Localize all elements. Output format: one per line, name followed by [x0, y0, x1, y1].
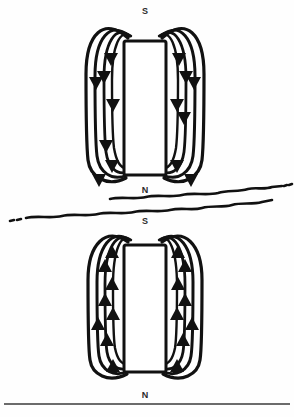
- upper-magnet-group: S N: [86, 6, 204, 195]
- wavy-boundary: [10, 184, 292, 221]
- lower-magnet-group: S N: [88, 216, 202, 400]
- wavy-boundary-lower-dashes: [10, 219, 21, 221]
- magnet-field-diagram: S N: [0, 0, 294, 417]
- lower-magnet-body: [124, 245, 166, 372]
- wavy-boundary-upper-line: [110, 186, 282, 199]
- diagram-canvas: S N: [0, 0, 294, 417]
- wavy-boundary-lower-line: [26, 200, 272, 218]
- wavy-boundary-upper-dashes: [284, 184, 292, 186]
- upper-magnet-n-label: N: [142, 185, 149, 195]
- upper-magnet-s-label: S: [142, 6, 148, 16]
- lower-magnet-n-label: N: [142, 390, 149, 400]
- lower-magnet-s-label: S: [142, 216, 148, 226]
- upper-magnet-body: [124, 41, 166, 175]
